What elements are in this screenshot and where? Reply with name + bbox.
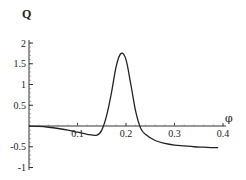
x-axis: 0.10.20.30.4 φ [29, 112, 233, 139]
y-tick-label: 1.5 [14, 58, 27, 69]
y-axis: 21.510.5-0.5-1 Q [10, 7, 33, 173]
line-chart: 21.510.5-0.5-1 Q 0.10.20.30.4 φ [0, 0, 246, 180]
x-tick-label: 0.2 [120, 128, 133, 139]
y-axis-ticks: 21.510.5-0.5-1 [10, 38, 33, 174]
y-tick-label: 2 [21, 38, 26, 49]
x-tick-label: 0.4 [217, 128, 230, 139]
x-axis-title: φ [225, 112, 233, 125]
y-tick-label: 0.5 [14, 100, 27, 111]
y-tick-label: -0.5 [10, 141, 26, 152]
y-tick-label: -1 [18, 162, 26, 173]
y-axis-title: Q [22, 7, 31, 21]
y-tick-label: 1 [21, 79, 26, 90]
x-axis-ticks: 0.10.20.30.4 [39, 123, 230, 139]
x-tick-label: 0.3 [168, 128, 181, 139]
